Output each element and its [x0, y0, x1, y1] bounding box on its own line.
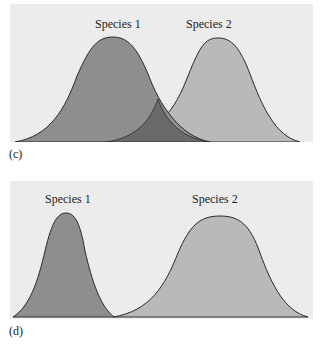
species2-curve-d [113, 216, 308, 317]
species1-label-d: Species 1 [45, 192, 91, 207]
species2-label-d: Species 2 [192, 192, 238, 207]
species2-label-c: Species 2 [186, 17, 232, 32]
panel-d-letter: (d) [9, 324, 23, 339]
species1-label-c: Species 1 [95, 17, 141, 32]
panel-c-letter: (c) [9, 147, 22, 162]
species1-curve-c [15, 37, 210, 142]
panel-c-diagram: Species 1 Species 2 [10, 4, 313, 142]
overlapping-curves-graphic [10, 4, 313, 142]
panel-d-diagram: Species 1 Species 2 [10, 181, 313, 319]
species1-curve-d [13, 213, 114, 317]
